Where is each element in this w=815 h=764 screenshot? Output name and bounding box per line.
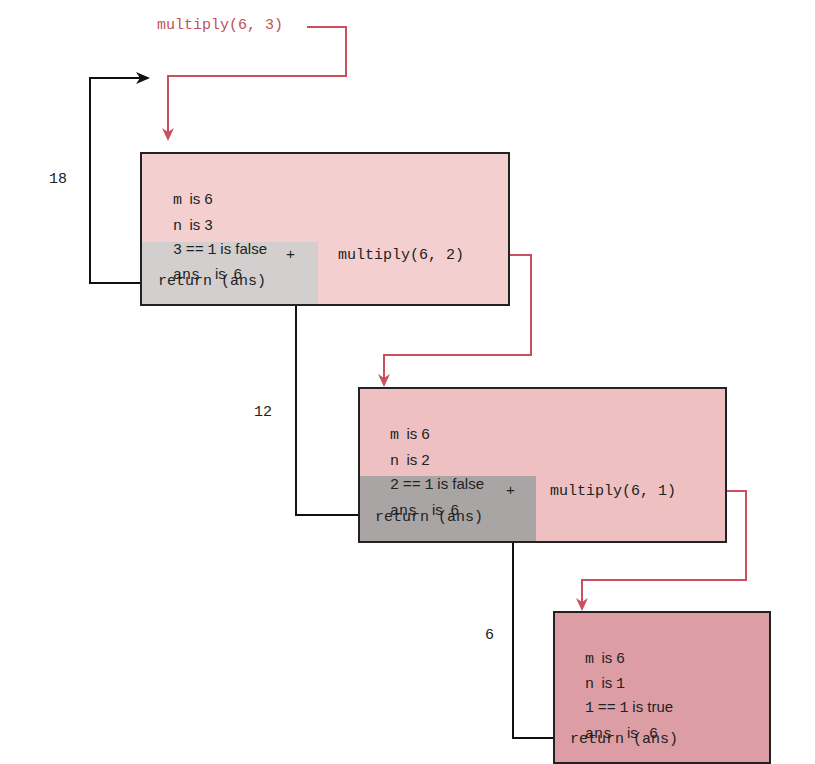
call-arrow-1 <box>162 27 346 141</box>
initial-call-label: multiply(6, 3) <box>157 17 283 34</box>
frame-2-recursive-call: multiply(6, 1) <box>550 483 676 501</box>
return-value-label-12: 12 <box>254 404 272 421</box>
frame-2-return-line: return (ans) <box>375 509 483 527</box>
frame-1-recursive-call: multiply(6, 2) <box>338 247 464 265</box>
call-frame-2: m is 6 n is 2 2 == 1 is false ans is 6 +… <box>358 387 727 543</box>
frame-3-return-line: return (ans) <box>570 731 678 749</box>
return-value-label-6: 6 <box>485 627 494 644</box>
call-frame-3: m is 6 n is 1 1 == 1 is true ans is 6 re… <box>553 611 771 764</box>
frame-2-plus: + <box>506 483 515 501</box>
call-frame-1: m is 6 n is 3 3 == 1 is false ans is 6 +… <box>140 152 510 306</box>
return-value-label-18: 18 <box>49 171 67 188</box>
frame-1-plus: + <box>286 247 295 265</box>
frame-1-return-line: return (ans) <box>158 273 266 291</box>
